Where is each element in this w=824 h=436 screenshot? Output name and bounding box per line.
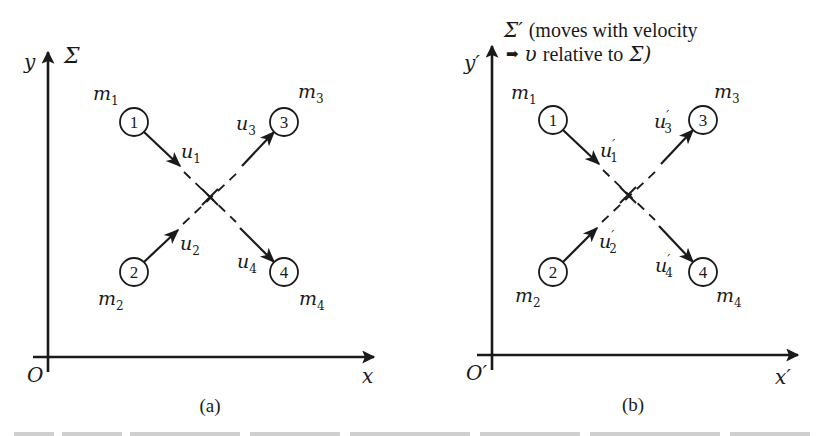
velocity-arrow-u3-a bbox=[242, 132, 274, 166]
mass-label-m3-a: m3 bbox=[298, 80, 324, 106]
svg-text:2: 2 bbox=[130, 263, 139, 282]
mass-label-m4-a: m4 bbox=[299, 287, 325, 313]
y-axis-label-a: y bbox=[23, 50, 36, 74]
svg-text:4: 4 bbox=[280, 263, 289, 282]
frame-label-b: Σ′ bbox=[503, 18, 523, 42]
velocity-label-u3p-b: u′3 bbox=[654, 108, 672, 136]
velocity-label-u4p-b: u′4 bbox=[655, 252, 673, 280]
origin-label-b: O′ bbox=[466, 361, 487, 385]
svg-text:4: 4 bbox=[699, 263, 708, 282]
particle-1-b: 1 bbox=[539, 106, 567, 134]
particle-4-a: 4 bbox=[270, 258, 298, 286]
collision-point-a bbox=[202, 189, 218, 205]
mass-label-m1-a: m1 bbox=[93, 82, 119, 108]
velocity-label-u3-a: u3 bbox=[236, 112, 256, 138]
mass-label-m4-b: m4 bbox=[716, 284, 742, 310]
particle-2-b: 2 bbox=[539, 258, 567, 286]
collision-diagram-figure: y Σ O x 1 3 2 4 m1 m3 m2 bbox=[0, 0, 824, 436]
x-axis-label-b: x′ bbox=[775, 365, 791, 389]
frame-description-line2-b: ➡υrelative toΣ) bbox=[506, 42, 651, 66]
velocity-label-u1p-b: u′1 bbox=[600, 137, 618, 165]
particle-1-a: 1 bbox=[120, 108, 148, 136]
velocity-label-u1-a: u1 bbox=[181, 140, 201, 166]
velocity-arrow-u2-a bbox=[144, 230, 178, 262]
y-axis-label-b: y′ bbox=[463, 51, 480, 75]
x-axis-label-a: x bbox=[362, 364, 373, 388]
particle-2-a: 2 bbox=[120, 258, 148, 286]
svg-text:1: 1 bbox=[549, 111, 558, 130]
svg-text:1: 1 bbox=[130, 113, 139, 132]
panel-a: y Σ O x 1 3 2 4 m1 m3 m2 bbox=[23, 43, 374, 417]
svg-text:3: 3 bbox=[280, 113, 289, 132]
velocity-arrow-u1p-b bbox=[563, 130, 599, 164]
mass-label-m2-b: m2 bbox=[515, 284, 541, 310]
velocity-label-u4-a: u4 bbox=[237, 250, 257, 276]
particle-3-a: 3 bbox=[270, 108, 298, 136]
panel-caption-a: (a) bbox=[199, 395, 220, 417]
particle-3-b: 3 bbox=[689, 106, 717, 134]
velocity-arrow-u2p-b bbox=[563, 228, 597, 262]
frame-label-a: Σ bbox=[63, 43, 80, 68]
frame-description-line1-b: Σ′(moves with velocity bbox=[503, 18, 698, 42]
origin-label-a: O bbox=[27, 363, 43, 387]
svg-text:2: 2 bbox=[549, 263, 558, 282]
velocity-direction-arrow-icon: ➡ bbox=[506, 46, 519, 62]
mass-label-m2-a: m2 bbox=[98, 287, 124, 313]
cut-off-caption-fragment bbox=[14, 432, 810, 436]
panel-b: y′ O′ x′ Σ′(moves with velocity ➡υrelati… bbox=[463, 18, 798, 416]
panel-caption-b: (b) bbox=[622, 394, 644, 416]
collision-point-b bbox=[620, 187, 636, 203]
velocity-arrow-u1-a bbox=[144, 132, 180, 166]
velocity-label-u2p-b: u′2 bbox=[599, 228, 617, 256]
velocity-label-u2-a: u2 bbox=[180, 232, 200, 258]
mass-label-m1-b: m1 bbox=[511, 81, 537, 107]
particle-4-b: 4 bbox=[689, 258, 717, 286]
svg-text:3: 3 bbox=[699, 111, 708, 130]
mass-label-m3-b: m3 bbox=[714, 80, 740, 106]
